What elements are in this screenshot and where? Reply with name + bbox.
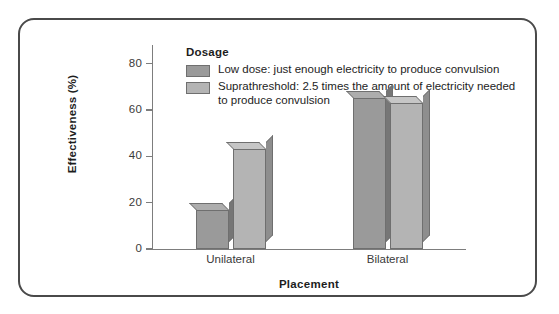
x-label-unilateral: Unilateral <box>171 253 291 265</box>
plot-area <box>152 45 466 249</box>
bar-side-face <box>423 89 430 242</box>
bar-front-face <box>233 149 266 249</box>
y-tick-label-60: 60 <box>102 103 142 115</box>
y-tick-label-20: 20 <box>102 196 142 208</box>
bar-top-face <box>189 203 229 210</box>
y-tick-label-40: 40 <box>102 149 142 161</box>
bar-top-face <box>226 142 266 149</box>
bar-front-face <box>196 210 229 249</box>
y-tick-label-80: 80 <box>102 57 142 69</box>
bar-top-face <box>383 96 423 103</box>
bar-front-face <box>353 98 386 249</box>
bar-unilateral-low-dose <box>196 210 229 249</box>
y-axis-title: Effectiveness (%) <box>66 44 78 204</box>
bar-unilateral-suprathreshold <box>233 149 266 249</box>
bar-top-face <box>346 91 386 98</box>
bar-front-face <box>390 103 423 249</box>
bar-bilateral-low-dose <box>353 98 386 249</box>
x-axis-title: Placement <box>152 278 466 290</box>
bar-side-face <box>266 135 273 242</box>
x-label-bilateral: Bilateral <box>328 253 448 265</box>
y-tick-label-0: 0 <box>102 242 142 254</box>
bar-bilateral-suprathreshold <box>390 103 423 249</box>
